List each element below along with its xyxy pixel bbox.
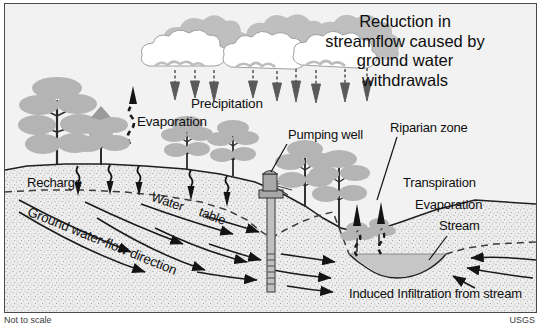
label-riparian-zone: Riparian zone — [390, 121, 468, 136]
label-evaporation-right: Evaporation — [415, 198, 482, 213]
label-precipitation: Precipitation — [191, 96, 263, 111]
label-induced-infiltration: Induced Infiltration from stream — [349, 287, 522, 302]
figure-canvas: Reduction in streamflow caused by ground… — [0, 0, 541, 326]
source-credit: USGS — [509, 315, 535, 326]
title-line-3: ground water — [283, 51, 527, 71]
label-recharge: Recharge — [27, 176, 82, 191]
title-line-1: Reduction in — [283, 12, 527, 32]
title-line-4: withdrawals — [283, 71, 527, 91]
figure-title: Reduction in streamflow caused by ground… — [283, 12, 527, 91]
label-transpiration: Transpiration — [403, 176, 476, 191]
title-line-2: streamflow caused by — [283, 32, 527, 52]
label-pumping-well: Pumping well — [288, 128, 363, 143]
label-stream: Stream — [439, 219, 480, 234]
label-evaporation-left: Evaporation — [137, 114, 207, 129]
scale-note: Not to scale — [4, 315, 52, 326]
diagram-frame: Reduction in streamflow caused by ground… — [4, 3, 537, 313]
